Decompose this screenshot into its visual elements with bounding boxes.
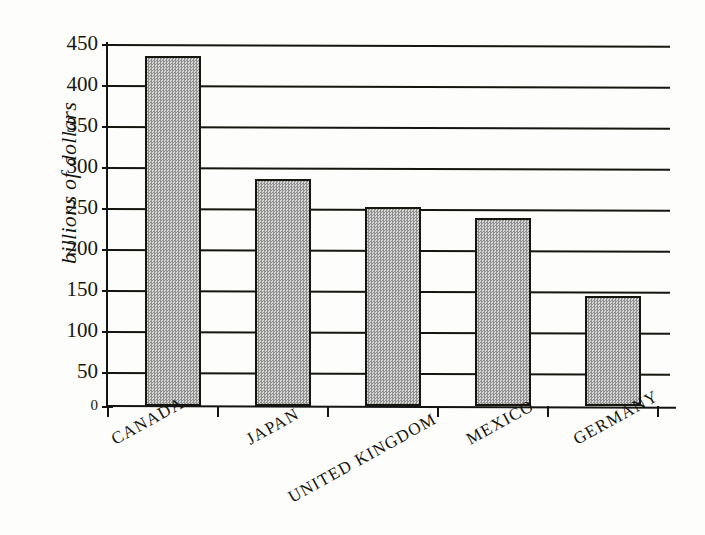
y-tick-label-50: 50 <box>38 361 98 382</box>
y-tick-mark-150 <box>102 290 113 292</box>
gridline-450 <box>107 44 670 48</box>
y-tick-mark-200 <box>102 249 113 251</box>
x-tick-mark-4 <box>547 406 549 417</box>
y-tick-label-150: 150 <box>38 279 98 300</box>
plot-area <box>107 44 670 406</box>
y-tick-label-450: 450 <box>38 33 98 54</box>
y-axis-title: billions of dollars <box>56 102 82 264</box>
x-tick-mark-2 <box>327 406 329 417</box>
y-tick-mark-450 <box>102 44 113 46</box>
y-tick-label-100: 100 <box>38 320 98 341</box>
y-tick-mark-350 <box>102 126 113 128</box>
x-tick-mark-5 <box>657 406 659 417</box>
bar-japan <box>255 179 311 406</box>
bar-chart-figure: billions of dollars 450 400 350 300 250 … <box>0 0 705 535</box>
bar-canada <box>145 56 201 406</box>
y-tick-mark-300 <box>102 167 113 169</box>
y-tick-label-0: 0 <box>38 398 98 413</box>
bar-mexico <box>475 218 531 406</box>
bar-united-kingdom <box>365 207 421 406</box>
y-tick-mark-250 <box>102 208 113 210</box>
y-tick-label-400: 400 <box>38 74 98 95</box>
y-tick-mark-100 <box>102 331 113 333</box>
x-tick-mark-0 <box>107 406 109 417</box>
y-tick-mark-50 <box>102 372 113 374</box>
y-tick-mark-400 <box>102 85 113 87</box>
x-tick-mark-3 <box>437 406 439 417</box>
x-axis-line <box>106 405 676 409</box>
bar-germany <box>585 296 641 406</box>
x-category-label-united-kingdom: UNITED KINGDOM <box>285 409 440 507</box>
x-tick-mark-1 <box>217 406 219 417</box>
x-category-label-japan: JAPAN <box>243 404 303 449</box>
